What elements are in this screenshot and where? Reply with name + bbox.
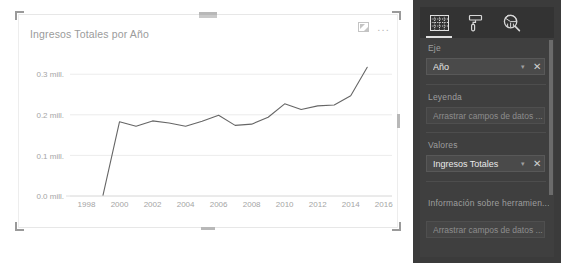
- chevron-down-icon[interactable]: ▾: [517, 160, 529, 167]
- table-grid-icon: [430, 15, 449, 31]
- svg-text:2000: 2000: [111, 200, 129, 209]
- remove-field-icon[interactable]: ✕: [529, 159, 544, 169]
- format-tab[interactable]: [463, 11, 487, 35]
- field-chip-ingresos-totales[interactable]: Ingresos Totales ▾ ✕: [426, 155, 545, 172]
- resize-handle-right[interactable]: [397, 114, 400, 128]
- svg-text:2016: 2016: [375, 200, 393, 209]
- pane-tab-strip: [420, 7, 554, 38]
- section-divider-3: [426, 181, 546, 182]
- visual-title: Ingresos Totales por Año: [30, 28, 149, 40]
- visualizations-fields-pane[interactable]: Eje Año ▾ ✕ Leyenda Arrastrar campos de …: [413, 0, 561, 263]
- canvas-right-margin: [561, 0, 574, 263]
- section-divider-2: [426, 132, 546, 133]
- bucket-label-eje: Eje: [428, 43, 441, 53]
- chevron-down-icon[interactable]: ▾: [517, 63, 529, 70]
- visual-header-actions: ...: [358, 22, 390, 33]
- svg-text:2012: 2012: [309, 200, 327, 209]
- svg-text:2008: 2008: [243, 200, 261, 209]
- chart-plot-area[interactable]: 0.0 mill.0.1 mill.0.2 mill.0.3 mill.1998…: [18, 48, 398, 228]
- pane-inner: Eje Año ▾ ✕ Leyenda Arrastrar campos de …: [420, 7, 554, 257]
- svg-text:0.1 mill.: 0.1 mill.: [36, 152, 64, 161]
- dropzone-leyenda-text: Arrastrar campos de datos ...: [433, 111, 543, 121]
- focus-mode-icon[interactable]: [358, 22, 370, 33]
- more-options-icon[interactable]: ...: [377, 23, 390, 32]
- pane-buckets: Eje Año ▾ ✕ Leyenda Arrastrar campos de …: [420, 38, 554, 257]
- paint-roller-icon: [467, 14, 484, 32]
- svg-text:1998: 1998: [78, 200, 96, 209]
- fields-tab[interactable]: [427, 11, 451, 35]
- bucket-label-tooltips: Información sobre herramien...: [428, 198, 550, 208]
- line-chart-svg: 0.0 mill.0.1 mill.0.2 mill.0.3 mill.1998…: [18, 48, 398, 228]
- svg-text:2002: 2002: [144, 200, 162, 209]
- bucket-label-leyenda: Leyenda: [428, 92, 462, 102]
- pane-scrollbar-thumb[interactable]: [549, 40, 553, 195]
- magnifier-chart-icon: [502, 14, 521, 32]
- resize-handle-top-right[interactable]: [392, 11, 401, 20]
- resize-handle-top-left[interactable]: [15, 11, 24, 20]
- section-divider-1: [426, 84, 546, 85]
- line-chart-visual[interactable]: Ingresos Totales por Año ... 0.0 mill.0.…: [18, 14, 398, 228]
- svg-text:0.0 mill.: 0.0 mill.: [36, 192, 64, 201]
- svg-text:0.2 mill.: 0.2 mill.: [36, 111, 64, 120]
- resize-handle-bottom-left[interactable]: [15, 222, 24, 231]
- svg-text:0.3 mill.: 0.3 mill.: [36, 70, 64, 79]
- field-chip-ano-label: Año: [433, 62, 517, 72]
- resize-handle-top[interactable]: [199, 12, 217, 15]
- field-chip-ingresos-totales-label: Ingresos Totales: [433, 159, 517, 169]
- svg-text:2014: 2014: [342, 200, 360, 209]
- analytics-tab[interactable]: [499, 11, 523, 35]
- field-chip-ano[interactable]: Año ▾ ✕: [426, 58, 545, 75]
- resize-handle-bottom[interactable]: [201, 227, 215, 230]
- bucket-label-valores: Valores: [428, 140, 458, 150]
- dropzone-tooltips-text: Arrastrar campos de datos ...: [433, 225, 543, 235]
- svg-text:2004: 2004: [177, 200, 195, 209]
- report-canvas[interactable]: Ingresos Totales por Año ... 0.0 mill.0.…: [0, 0, 420, 263]
- dropzone-leyenda[interactable]: Arrastrar campos de datos ...: [426, 107, 545, 124]
- resize-handle-bottom-right[interactable]: [392, 222, 401, 231]
- dropzone-tooltips[interactable]: Arrastrar campos de datos ...: [426, 221, 545, 238]
- svg-text:2010: 2010: [276, 200, 294, 209]
- svg-text:2006: 2006: [210, 200, 228, 209]
- remove-field-icon[interactable]: ✕: [529, 62, 544, 72]
